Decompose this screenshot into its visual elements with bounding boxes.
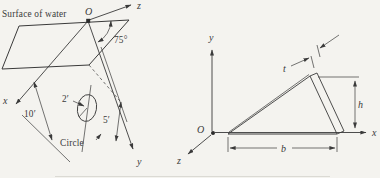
depth-dimension-label: 10′ [24, 109, 36, 119]
gate-radius-line [79, 108, 87, 117]
thickness-leader-left [291, 58, 309, 66]
figure-canvas: Surface of water O z x y 75° 10′ 2′ 5′ C… [0, 0, 380, 178]
plate-thickness-face [310, 73, 344, 134]
depth-dimension-line [34, 82, 52, 140]
base-label: b [281, 143, 286, 154]
surface-of-water-label: Surface of water [2, 9, 67, 19]
y-axis-label: y [208, 32, 214, 43]
origin-point [211, 131, 215, 135]
thickness-tick-right [317, 45, 320, 57]
z-axis-line [89, 5, 131, 20]
offset-dimension-label: 5′ [103, 115, 110, 125]
x-axis-label: x [2, 95, 8, 106]
z-axis-label: z [136, 0, 141, 11]
z-axis-label: z [176, 155, 181, 166]
origin-point [86, 19, 90, 23]
left-figure-water-gate: Surface of water O z x y 75° 10′ 2′ 5′ C… [2, 0, 142, 167]
incline-edge-line [101, 47, 127, 122]
thickness-label: t [283, 63, 286, 74]
radius-leader-line [73, 101, 84, 106]
circle-leader-line [96, 134, 101, 140]
thickness-leader-right [320, 35, 339, 48]
circle-label: Circle [60, 138, 84, 148]
origin-label: O [85, 6, 92, 17]
height-label: h [358, 99, 363, 110]
projection-dashed-line [89, 65, 120, 101]
right-figure-triangular-plate: O y x z t h b [176, 32, 377, 166]
x-axis-line [16, 21, 88, 104]
textbook-figure-page: Surface of water O z x y 75° 10′ 2′ 5′ C… [0, 0, 380, 178]
angle-value-label: 75° [114, 35, 128, 45]
angle-arc [98, 21, 111, 42]
radius-dimension-label: 2′ [62, 94, 69, 104]
origin-label: O [197, 124, 204, 135]
hypotenuse-front-line [228, 76, 310, 134]
x-axis-label: x [371, 127, 377, 138]
z-axis-line [188, 135, 211, 154]
hypotenuse-back-line [229, 75, 309, 133]
y-axis-label: y [136, 156, 142, 167]
thickness-tick-left [311, 56, 314, 68]
